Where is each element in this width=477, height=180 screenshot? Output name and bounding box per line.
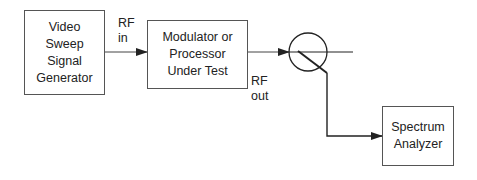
spectrum-analyzer-block: Spectrum Analyzer <box>382 106 454 166</box>
rf-out-label: RF out <box>251 74 268 104</box>
dut-label: Modulator or Processor Under Test <box>162 29 232 80</box>
rf-in-label: RF in <box>118 16 135 46</box>
video-sweep-signal-generator-block: Video Sweep Signal Generator <box>24 10 105 95</box>
modulator-processor-under-test-block: Modulator or Processor Under Test <box>147 20 248 89</box>
generator-label: Video Sweep Signal Generator <box>36 19 92 87</box>
analyzer-label: Spectrum Analyzer <box>391 119 445 153</box>
analyzer-feed-line <box>327 73 382 136</box>
